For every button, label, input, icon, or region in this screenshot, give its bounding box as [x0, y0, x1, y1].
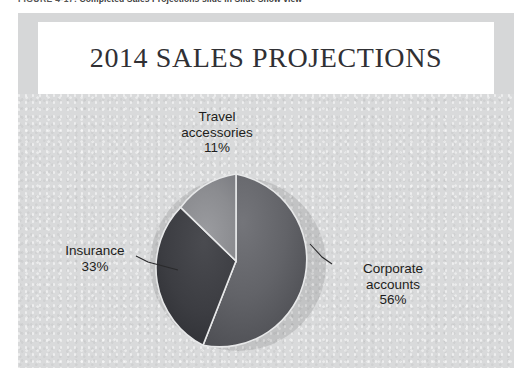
pie-label-corporate-line2: accounts — [328, 277, 458, 293]
figure-caption-label: FIGURE 4-17: — [18, 0, 77, 4]
pie-label-travel-line2: accessories — [157, 125, 277, 141]
pie-label-insurance-line1: Insurance — [36, 243, 154, 259]
pie-label-corporate-value: 56% — [328, 292, 458, 308]
pie-label-corporate-accounts: Corporate accounts 56% — [328, 261, 458, 308]
page-root: FIGURE 4-17: Completed Sales Projections… — [0, 0, 529, 380]
pie-label-insurance-value: 33% — [36, 259, 154, 275]
pie-label-corporate-line1: Corporate — [328, 261, 458, 277]
figure-caption-text: Completed Sales Projections slide in Sli… — [80, 0, 302, 4]
slide[interactable]: 2014 SALES PROJECTIONS — [18, 13, 514, 368]
figure-caption: FIGURE 4-17: Completed Sales Projections… — [18, 0, 518, 6]
pie-chart[interactable]: Travel accessories 11% Insurance 33% Cor… — [18, 94, 514, 368]
pie-label-travel-accessories: Travel accessories 11% — [157, 109, 277, 156]
pie-label-insurance: Insurance 33% — [36, 243, 154, 274]
pie-label-travel-line1: Travel — [157, 109, 277, 125]
slide-title-band: 2014 SALES PROJECTIONS — [38, 22, 494, 94]
slide-title: 2014 SALES PROJECTIONS — [90, 42, 442, 74]
pie-label-travel-value: 11% — [157, 140, 277, 156]
slide-body: Travel accessories 11% Insurance 33% Cor… — [18, 94, 514, 368]
